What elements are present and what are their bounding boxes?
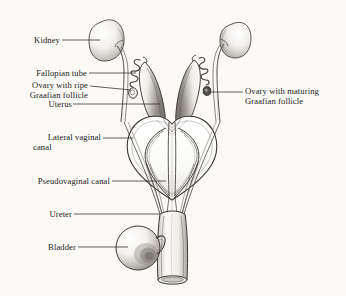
label-fallopian-tube: Fallopian tube	[2, 68, 87, 78]
leader-ovary-ripe	[90, 86, 131, 90]
urogenital-sinus	[157, 211, 187, 284]
label-ovary-ripe-line1: Ovary with ripe	[2, 80, 88, 90]
label-ovary-maturing-line2: Graafian follicle	[245, 96, 345, 106]
label-ureter: Ureter	[2, 209, 72, 219]
label-pseudovaginal-canal: Pseudovaginal canal	[2, 176, 110, 186]
label-lateral-vaginal-line1: Lateral vaginal	[2, 132, 101, 142]
left-kidney-group	[89, 20, 124, 61]
label-uterus: Uterus	[2, 99, 72, 109]
left-ureter	[117, 46, 128, 122]
right-ovary	[203, 87, 211, 96]
anatomical-figure: Kidney Fallopian tube Ovary with ripe Gr…	[0, 0, 346, 296]
right-kidney-group	[220, 22, 251, 58]
label-kidney: Kidney	[4, 35, 60, 45]
left-ovary	[129, 88, 138, 98]
uterus-body	[127, 116, 217, 200]
right-ureter	[213, 44, 224, 122]
label-ovary-maturing-line1: Ovary with maturing	[245, 86, 345, 96]
label-bladder: Bladder	[2, 242, 76, 252]
label-lateral-vaginal-line2: canal	[33, 142, 103, 152]
